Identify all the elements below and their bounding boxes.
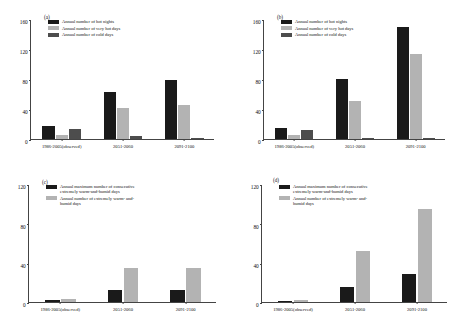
y-axis-tick-label: 120 [20, 50, 31, 55]
legend-swatch-icon [281, 33, 292, 37]
y-axis-tick-label: 120 [253, 50, 264, 55]
bar [410, 54, 422, 139]
x-axis-tick-mark [184, 139, 185, 141]
x-axis-tick-mark [123, 302, 124, 304]
y-axis-tick-label: 40 [20, 264, 29, 269]
bar [61, 299, 76, 302]
x-axis-tick-mark [355, 302, 356, 304]
x-axis-tick-mark [355, 139, 356, 141]
x-axis-tick-mark [417, 302, 418, 304]
y-axis-tick-label: 80 [22, 80, 31, 85]
legend-item: Annual number of extremely warm- and- hu… [46, 196, 176, 206]
bar [165, 80, 177, 139]
y-axis-tick-label: 0 [25, 140, 31, 145]
legend-item-label: Annual maximum number of consecutive ext… [293, 184, 368, 194]
bar [301, 130, 313, 139]
legend-item: Annual number of cold days [281, 32, 401, 37]
legend-swatch-icon [46, 185, 57, 189]
bar [418, 209, 433, 302]
bar [108, 290, 123, 302]
x-axis-tick-label: 1986-2005(observed) [273, 307, 313, 312]
legend-item: Annual maximum number of consecutive ext… [46, 184, 176, 194]
legend-swatch-icon [46, 196, 57, 200]
legend-swatch-icon [281, 26, 292, 30]
x-axis-tick-label: 2091-2100 [176, 307, 196, 312]
legend-swatch-icon [279, 196, 290, 200]
x-axis-tick-mark [294, 139, 295, 141]
legend-swatch-icon [279, 185, 290, 189]
x-axis-tick-label: 2051-2060 [345, 307, 365, 312]
bar [45, 300, 60, 302]
legend-swatch-icon [281, 20, 292, 24]
chart-panel-b: (b)040801201601986-2005(observed)2051-20… [233, 0, 465, 165]
panel-label: (d) [273, 177, 279, 183]
chart-legend: Annual maximum number of consecutive ext… [46, 184, 176, 206]
bar [402, 274, 417, 302]
y-axis-tick-label: 0 [258, 140, 264, 145]
legend-item-label: Annual number of extremely warm- and- hu… [60, 196, 134, 206]
chart-legend: Annual number of hot nightsAnnual number… [281, 19, 401, 37]
x-axis-tick-label: 2091-2100 [406, 144, 426, 149]
x-axis-tick-label: 1986-2005(observed) [41, 307, 81, 312]
y-axis-tick-label: 120 [251, 185, 262, 190]
legend-item-label: Annual number of hot nights [295, 19, 347, 24]
chart-legend: Annual maximum number of consecutive ext… [279, 184, 409, 206]
bar [336, 79, 348, 139]
x-axis-tick-mark [185, 302, 186, 304]
plot-area: 040801201601986-2005(observed)2051-20602… [30, 20, 214, 140]
bar [170, 290, 185, 302]
y-axis-tick-label: 40 [22, 110, 31, 115]
y-axis-tick-label: 0 [23, 303, 29, 308]
bar [124, 268, 139, 302]
bar [356, 251, 371, 302]
y-axis-tick-label: 0 [256, 303, 262, 308]
bar [186, 268, 201, 302]
plot-area: 040801201601986-2005(observed)2051-20602… [263, 20, 445, 140]
bar [69, 129, 81, 140]
x-axis-tick-mark [61, 139, 62, 141]
legend-item-label: Annual number of cold days [62, 32, 113, 37]
legend-item: Annual number of very hot days [48, 26, 168, 31]
legend-swatch-icon [48, 26, 59, 30]
legend-item: Annual maximum number of consecutive ext… [279, 184, 409, 194]
y-axis-tick-label: 120 [18, 185, 29, 190]
bar [191, 138, 203, 139]
x-axis-tick-label: 1986-2005(observed) [275, 144, 315, 149]
chart-panel-c: (c)040801201986-2005(observed)2051-20602… [0, 165, 233, 329]
bar [423, 138, 435, 139]
legend-item-label: Annual number of cold days [295, 32, 346, 37]
legend-item: Annual number of very hot days [281, 26, 401, 31]
chart-panel-d: (d)040801201986-2005(observed)2051-20602… [233, 165, 465, 329]
bar [104, 92, 116, 139]
bar [278, 301, 293, 302]
bar [294, 300, 309, 302]
y-axis-tick-label: 80 [20, 224, 29, 229]
legend-item: Annual number of extremely warm- and- hu… [279, 196, 409, 206]
y-axis-tick-label: 40 [253, 264, 262, 269]
y-axis-tick-label: 160 [20, 20, 31, 25]
x-axis-tick-label: 1986-2005(observed) [42, 144, 82, 149]
chart-panel-a: (a)040801201601986-2005(observed)2051-20… [0, 0, 233, 165]
y-axis-tick-label: 80 [253, 224, 262, 229]
y-axis-tick-label: 160 [253, 20, 264, 25]
bar [397, 27, 409, 140]
x-axis-tick-mark [123, 139, 124, 141]
x-axis-tick-label: 2051-2060 [113, 307, 133, 312]
bar [340, 287, 355, 302]
legend-swatch-icon [48, 33, 59, 37]
bar [117, 108, 129, 139]
x-axis-tick-mark [293, 302, 294, 304]
y-axis-tick-label: 40 [255, 110, 264, 115]
x-axis-tick-label: 2091-2100 [407, 307, 427, 312]
x-axis-tick-mark [415, 139, 416, 141]
legend-item: Annual number of hot nights [281, 19, 401, 24]
bar [178, 105, 190, 139]
x-axis-tick-label: 2091-2100 [174, 144, 194, 149]
x-axis-tick-label: 2051-2060 [345, 144, 365, 149]
legend-item: Annual number of cold days [48, 32, 168, 37]
chart-legend: Annual number of hot nightsAnnual number… [48, 19, 168, 37]
legend-item-label: Annual number of very hot days [295, 26, 353, 31]
x-axis-tick-mark [60, 302, 61, 304]
bar [130, 136, 142, 139]
y-axis-tick-label: 80 [255, 80, 264, 85]
